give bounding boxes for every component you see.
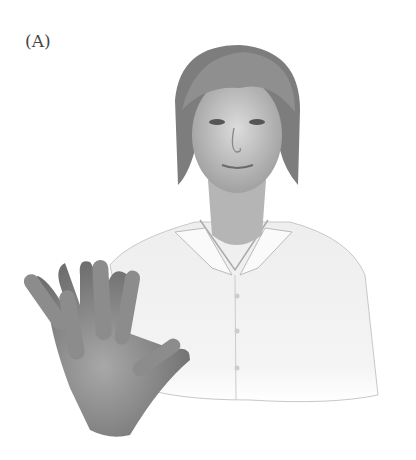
avatar-illustration	[0, 0, 416, 460]
face	[192, 77, 282, 193]
